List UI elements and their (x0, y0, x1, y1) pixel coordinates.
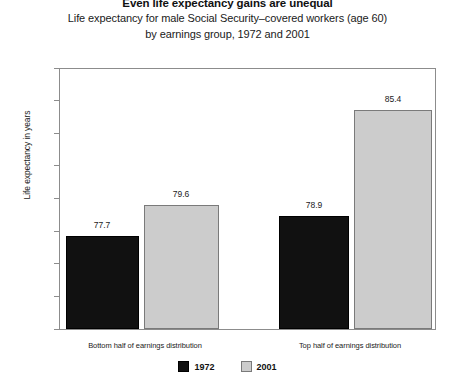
page-title: Even life expectancy gains are unequal (0, 0, 455, 10)
chart-subtitle-line-2: by earnings group, 1972 and 2001 (0, 27, 455, 43)
legend-label: 2001 (257, 362, 277, 372)
bars-container: 77.7 79.6 78.9 85.4 (60, 69, 435, 329)
legend-swatch-icon (241, 361, 252, 372)
legend: 1972 2001 (0, 361, 455, 372)
x-axis-category-label: Bottom half of earnings distribution (60, 341, 230, 350)
plot-area: 77.7 79.6 78.9 85.4 (59, 68, 436, 330)
y-axis-title: Life expectancy in years (22, 75, 32, 235)
legend-item-1972[interactable]: 1972 (178, 361, 214, 372)
legend-item-2001[interactable]: 2001 (241, 361, 277, 372)
chart-subtitle: Life expectancy for male Social Security… (0, 10, 455, 42)
bar-value-label: 77.7 (82, 221, 122, 230)
bar-1972-bottom-half[interactable] (66, 236, 139, 329)
bar-2001-bottom-half[interactable] (144, 205, 219, 329)
bar-2001-top-half[interactable] (354, 110, 432, 329)
legend-label: 1972 (194, 362, 214, 372)
legend-swatch-icon (178, 361, 189, 372)
bar-value-label: 85.4 (373, 95, 413, 104)
bar-value-label: 78.9 (294, 201, 334, 210)
x-axis-category-label: Top half of earnings distribution (265, 341, 435, 350)
chart-header: Even life expectancy gains are unequal L… (0, 0, 455, 42)
bar-value-label: 79.6 (161, 190, 201, 199)
chart-subtitle-line-1: Life expectancy for male Social Security… (0, 11, 455, 27)
bar-1972-top-half[interactable] (279, 216, 349, 329)
